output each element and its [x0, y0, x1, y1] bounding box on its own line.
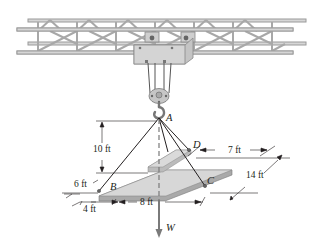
- dim-7ft: 7 ft: [228, 145, 241, 155]
- point-D-label: D: [192, 139, 201, 150]
- dim-6ft: 6 ft: [74, 179, 87, 189]
- crane-lift-diagram: A B C D W 10 ft 6 ft 4 ft 8 ft 7 ft 14 f…: [0, 0, 317, 243]
- dim-14ft: 14 ft: [246, 170, 264, 180]
- dim-4ft: 4 ft: [83, 204, 96, 214]
- point-C-label: C: [207, 175, 215, 186]
- point-B-label: B: [110, 181, 117, 192]
- point-A-label: A: [165, 112, 173, 123]
- hook: [154, 103, 164, 118]
- dim-height-10ft: 10 ft: [93, 144, 111, 154]
- dim-8ft: 8 ft: [140, 197, 153, 207]
- pulley-block: [149, 89, 169, 104]
- weight-label: W: [166, 222, 176, 233]
